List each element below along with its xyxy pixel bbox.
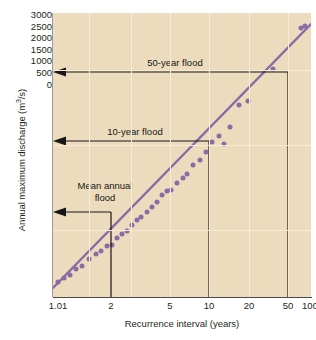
- x-tick-label: 50: [283, 300, 294, 311]
- data-point: [217, 134, 222, 139]
- vertical-gridline: [170, 13, 171, 297]
- y-axis-title-main: Annual maximum discharge (m: [16, 103, 27, 231]
- x-axis-title: Recurrence interval (years): [53, 318, 311, 329]
- horizontal-gridline: [53, 145, 311, 146]
- x-axis-tick-labels: 1.01 2 5 10 20 50 100: [0, 300, 316, 316]
- x-tick-label: 100: [302, 300, 316, 311]
- y-tick-label: 3000: [14, 9, 52, 21]
- vertical-gridline: [131, 13, 132, 297]
- data-point: [68, 273, 73, 278]
- data-point: [198, 158, 203, 163]
- data-point: [135, 218, 140, 223]
- data-point: [185, 172, 190, 177]
- vertical-gridline: [288, 13, 289, 297]
- data-point: [120, 232, 125, 237]
- data-point: [139, 215, 144, 220]
- data-point: [110, 243, 115, 248]
- flood-frequency-chart: Annual maximum discharge (m3/s) 3000 250…: [0, 0, 316, 340]
- data-point: [94, 252, 99, 257]
- data-point: [160, 193, 165, 198]
- data-point: [145, 210, 150, 215]
- vertical-gridline: [209, 13, 210, 297]
- fifty-year-arrowhead-icon: [53, 68, 66, 77]
- y-tick-label: 2500: [14, 21, 52, 33]
- plot-canvas: 50-year flood 10-year flood Mean annual …: [53, 13, 311, 297]
- x-tick-label: 20: [244, 300, 255, 311]
- data-point: [150, 205, 155, 210]
- horizontal-gridline: [53, 70, 311, 71]
- data-point: [191, 163, 196, 168]
- x-tick-label: 1.01: [49, 300, 68, 311]
- data-point: [62, 276, 67, 281]
- data-point: [204, 150, 209, 155]
- x-tick-label: 2: [108, 300, 113, 311]
- data-point: [99, 249, 104, 254]
- data-point: [303, 24, 308, 29]
- y-tick-label: 2000: [14, 32, 52, 44]
- mean-annual-flood-label-line1: Mean annual: [78, 180, 133, 191]
- mean-annual-arrowhead-icon: [53, 208, 66, 217]
- x-tick-label: 10: [204, 300, 215, 311]
- y-tick-label: 500: [14, 67, 52, 79]
- ten-year-flood-label: 10-year flood: [107, 126, 162, 137]
- data-point: [80, 264, 85, 269]
- data-point: [175, 181, 180, 186]
- y-tick-label: 1500: [14, 44, 52, 56]
- y-tick-label: 1000: [14, 55, 52, 67]
- data-point: [56, 280, 61, 285]
- mean-annual-flood-label-line2: flood: [95, 192, 116, 203]
- fifty-year-flood-label: 50-year flood: [147, 57, 202, 68]
- y-axis-title-exponent: 3: [15, 99, 22, 103]
- data-point: [105, 244, 110, 249]
- x-tick-label: 5: [167, 300, 172, 311]
- data-point: [115, 236, 120, 241]
- y-axis-title-tail: /s): [16, 89, 27, 99]
- vertical-gridline: [249, 13, 250, 297]
- data-point: [181, 176, 186, 181]
- data-point: [237, 103, 242, 108]
- plot-area: 50-year flood 10-year flood Mean annual …: [53, 13, 311, 297]
- data-point: [74, 267, 79, 272]
- y-tick-label: 0: [14, 79, 52, 91]
- horizontal-gridline: [53, 230, 311, 231]
- data-point: [210, 140, 215, 145]
- x-axis-line: [53, 297, 312, 298]
- vertical-gridline: [89, 13, 90, 297]
- y-axis-tick-labels: 3000 2500 2000 1500 1000 500 0: [14, 9, 52, 90]
- data-point: [228, 125, 233, 130]
- data-point: [155, 200, 160, 205]
